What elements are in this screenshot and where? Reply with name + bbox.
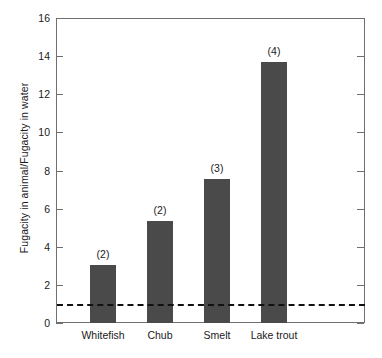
- bar-value-annotation: (3): [187, 163, 247, 174]
- y-tick-label: 4: [10, 242, 50, 253]
- y-tick-label: 2: [10, 280, 50, 291]
- bar: [147, 221, 173, 323]
- bar: [90, 265, 116, 323]
- y-tick-label: 6: [10, 204, 50, 215]
- bar: [261, 62, 287, 323]
- y-tick-label: 0: [10, 318, 50, 329]
- y-tick-mark-right: [357, 323, 364, 324]
- bar: [204, 179, 230, 323]
- bar-value-annotation: (2): [130, 205, 190, 216]
- y-tick-label: 16: [10, 13, 50, 24]
- y-tick-label: 8: [10, 166, 50, 177]
- x-tick-label: Lake trout: [234, 330, 314, 341]
- reference-line: [57, 304, 365, 306]
- y-tick-label: 10: [10, 127, 50, 138]
- bar-value-annotation: (2): [73, 249, 133, 260]
- y-tick-mark: [56, 323, 63, 324]
- chart-figure: Fugacity in animal/Fugacity in water 024…: [0, 0, 382, 358]
- y-tick-label: 14: [10, 51, 50, 62]
- bar-value-annotation: (4): [244, 46, 304, 57]
- y-tick-label: 12: [10, 89, 50, 100]
